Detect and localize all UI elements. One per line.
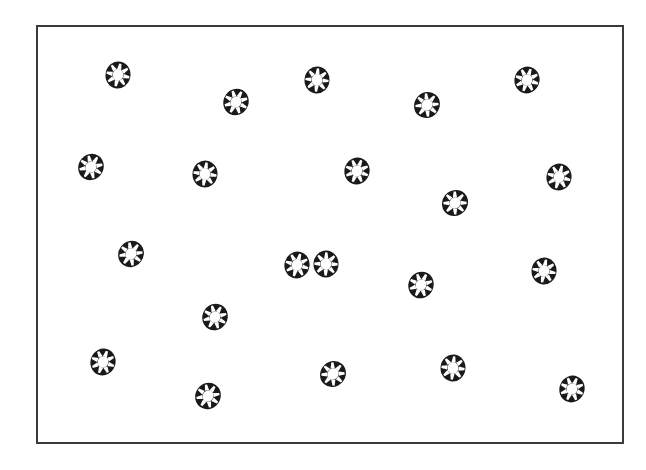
figure-canvas — [0, 0, 646, 470]
plot-frame — [36, 25, 624, 444]
